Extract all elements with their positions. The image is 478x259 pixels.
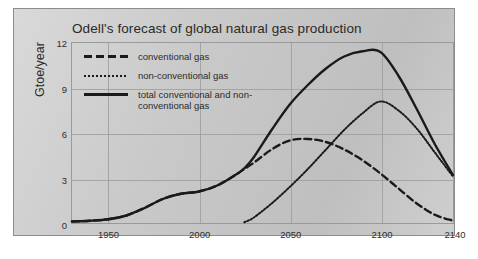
x-tick-label: 2050	[280, 229, 301, 240]
x-tick-label: 1950	[98, 229, 119, 240]
y-axis-label: Gtoe/year	[33, 42, 47, 97]
x-tick-label: 2000	[189, 229, 210, 240]
x-tick-label: 2140	[444, 229, 465, 240]
legend-item: conventional gas	[84, 51, 299, 63]
y-tick-label: 6	[62, 129, 67, 140]
chart-title: Odell's forecast of global natural gas p…	[72, 21, 402, 36]
legend-swatch-dashed	[84, 55, 128, 58]
y-tick-label: 0	[62, 220, 67, 231]
y-tick-label: 12	[56, 38, 67, 49]
legend-item: non-conventional gas	[84, 70, 299, 82]
legend-item: total conventional and non- conventional…	[84, 89, 299, 111]
chart-legend: conventional gasnon-conventional gastota…	[84, 51, 299, 118]
chart-frame: Odell's forecast of global natural gas p…	[13, 8, 455, 236]
y-tick-label: 3	[62, 174, 67, 185]
legend-swatch-dotted	[84, 75, 128, 77]
legend-label: non-conventional gas	[138, 70, 299, 81]
legend-label: total conventional and non- conventional…	[138, 89, 299, 111]
x-tick-label: 2100	[371, 229, 392, 240]
series-line	[72, 139, 453, 222]
figure: Odell's forecast of global natural gas p…	[0, 0, 478, 259]
y-tick-label: 9	[62, 83, 67, 94]
legend-label: conventional gas	[138, 51, 299, 62]
legend-swatch-solid	[84, 93, 128, 96]
